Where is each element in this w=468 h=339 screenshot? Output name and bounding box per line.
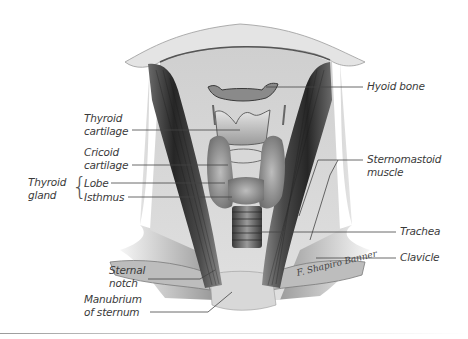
label-manubrium-line1: Manubrium	[84, 293, 142, 306]
label-sternomastoid-line2: muscle	[367, 166, 441, 179]
label-thyroid-gland-line1: Thyroid	[28, 176, 66, 189]
label-sternomastoid: Sternomastoid muscle	[367, 153, 441, 179]
thyroid-anatomy-figure: Hyoid bone Sternomastoid muscle Trachea …	[0, 0, 468, 339]
thyroid-isthmus	[228, 177, 264, 205]
label-cricoid-cartilage-line1: Cricoid	[84, 146, 128, 159]
label-trachea: Trachea	[400, 225, 440, 238]
label-hyoid-bone: Hyoid bone	[367, 80, 425, 93]
label-sternomastoid-line1: Sternomastoid	[367, 153, 441, 166]
label-thyroid-cartilage: Thyroid cartilage	[84, 112, 128, 138]
label-thyroid-cartilage-line1: Thyroid	[84, 112, 128, 125]
label-thyroid-isthmus: Isthmus	[84, 191, 124, 204]
label-thyroid-gland-line2: gland	[28, 189, 66, 202]
label-manubrium-line2: of sternum	[84, 306, 142, 319]
label-manubrium: Manubrium of sternum	[84, 293, 142, 319]
label-thyroid-gland: Thyroid gland	[28, 176, 66, 202]
label-clavicle: Clavicle	[400, 251, 439, 264]
label-thyroid-lobe: Lobe	[84, 177, 109, 190]
label-cricoid-cartilage-line2: cartilage	[84, 159, 128, 172]
bottom-divider	[0, 333, 468, 334]
label-thyroid-cartilage-line2: cartilage	[84, 125, 128, 138]
label-sternal-notch: Sternal notch	[109, 264, 145, 290]
label-sternal-notch-line2: notch	[109, 277, 145, 290]
label-sternal-notch-line1: Sternal	[109, 264, 145, 277]
label-cricoid-cartilage: Cricoid cartilage	[84, 146, 128, 172]
